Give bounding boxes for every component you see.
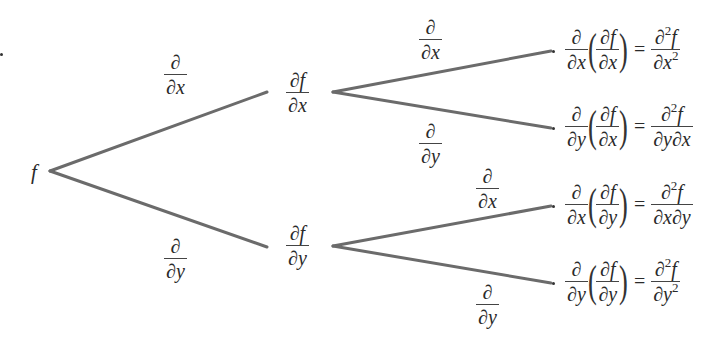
edge-label-d-dx-lower: ∂ ∂x bbox=[476, 166, 499, 211]
edge-label-d-dy-level1: ∂ ∂y bbox=[164, 236, 187, 281]
right-paren: ) bbox=[619, 28, 628, 72]
left-paren: ( bbox=[588, 260, 597, 304]
right-paren: ) bbox=[619, 260, 628, 304]
branch-fy-to-fyy bbox=[333, 246, 551, 283]
result-bullet bbox=[552, 282, 555, 285]
root-node-f: f bbox=[31, 160, 37, 185]
right-paren: ) bbox=[619, 183, 628, 227]
stray-dot bbox=[0, 53, 3, 56]
edge-label-d-dy-upper: ∂ ∂y bbox=[419, 121, 442, 166]
branch-fx-to-fxx bbox=[333, 51, 551, 92]
branch-fy-to-fxy bbox=[333, 206, 551, 246]
edge-label-d-dx-level1: ∂ ∂x bbox=[164, 52, 187, 97]
node-df-dy: ∂f ∂y bbox=[286, 223, 309, 268]
right-paren: ) bbox=[619, 105, 628, 149]
result-fyy: ∂ ∂y ( ∂f ∂y ) = ∂2f ∂y2 bbox=[565, 259, 680, 304]
left-paren: ( bbox=[588, 28, 597, 72]
branch-f-to-fx bbox=[50, 92, 267, 171]
branch-f-to-fy bbox=[50, 171, 267, 247]
edge-label-d-dx-upper: ∂ ∂x bbox=[419, 17, 442, 62]
result-bullet bbox=[552, 127, 555, 130]
left-paren: ( bbox=[588, 105, 597, 149]
result-bullet bbox=[552, 205, 555, 208]
result-fxy-mixed-yx: ∂ ∂y ( ∂f ∂x ) = ∂2f ∂y∂x bbox=[565, 104, 693, 149]
left-paren: ( bbox=[588, 183, 597, 227]
edge-label-d-dy-lower: ∂ ∂y bbox=[476, 282, 499, 327]
result-fyx-mixed-xy: ∂ ∂x ( ∂f ∂y ) = ∂2f ∂x∂y bbox=[565, 182, 693, 227]
branch-fx-to-fyx bbox=[333, 92, 551, 128]
node-df-dx: ∂f ∂x bbox=[286, 70, 309, 115]
result-bullet bbox=[552, 50, 555, 53]
result-fxx: ∂ ∂x ( ∂f ∂x ) = ∂2f ∂x2 bbox=[565, 27, 680, 72]
